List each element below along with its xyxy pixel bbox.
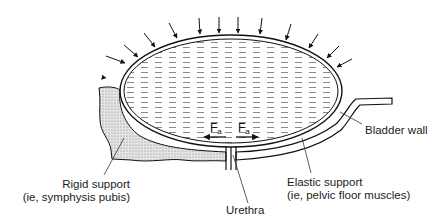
label-rigid-support-line2: (ie, symphysis pubis): [14, 191, 130, 204]
label-elastic-support: Elastic support (ie, pelvic floor muscle…: [287, 176, 410, 202]
urethra-tube: [226, 146, 236, 170]
force-label-left: Fa: [210, 121, 222, 136]
label-bladder-wall: Bladder wall: [365, 124, 428, 137]
label-rigid-support-line1: Rigid support: [14, 178, 130, 191]
label-elastic-support-line2: (ie, pelvic floor muscles): [287, 189, 410, 202]
label-elastic-support-line1: Elastic support: [287, 176, 410, 189]
force-label-right: Fa: [238, 121, 250, 136]
label-rigid-support: Rigid support (ie, symphysis pubis): [14, 178, 130, 204]
label-urethra: Urethra: [226, 204, 264, 217]
